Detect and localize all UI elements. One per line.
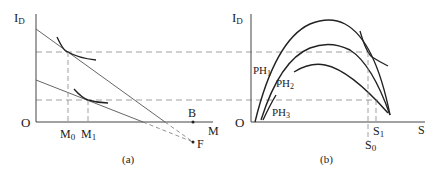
point-b-label: B [188, 106, 196, 120]
origin-label-a: O [21, 115, 30, 130]
lower-line-extension [143, 122, 193, 142]
upper-tangent-curve [57, 37, 96, 60]
upper-straight-line [36, 29, 165, 122]
origin-label-b: O [235, 115, 244, 130]
panel-b: ID O PH1 PH2 PH3 S1 S0 S (b) [232, 10, 425, 166]
y-axis-label-a: ID [14, 10, 25, 26]
upper-line-extension [165, 122, 193, 142]
x-axis-label-a: M [208, 124, 219, 138]
point-f-dot [192, 141, 195, 144]
curve-ph3 [294, 64, 388, 113]
curve-label-ph2: PH2 [276, 77, 294, 91]
tick-label-s0: S0 [365, 138, 377, 153]
point-b-dot [192, 121, 195, 124]
caption-b: (b) [320, 153, 333, 166]
x-axis-label-b: S [418, 123, 425, 137]
tick-label-s1: S1 [373, 124, 384, 139]
tick-label-m0: M0 [60, 127, 76, 142]
lower-tangent-curve [74, 89, 108, 103]
figure: ID O M0 M1 B M F (a) ID O PH1 PH2 PH3 S1… [0, 0, 437, 177]
tick-label-m1: M1 [81, 127, 96, 142]
point-f-label: F [197, 137, 204, 151]
curve-label-ph1: PH1 [253, 64, 271, 78]
panel-a: ID O M0 M1 B M F (a) [14, 10, 219, 166]
caption-a: (a) [122, 153, 135, 166]
y-axis-label-b: ID [232, 10, 243, 26]
curve-label-ph3: PH3 [272, 106, 290, 120]
